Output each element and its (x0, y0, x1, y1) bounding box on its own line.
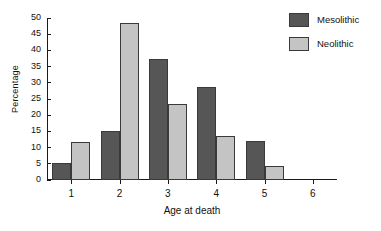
x-tick-label: 3 (156, 188, 180, 199)
y-axis-title: Percentage (10, 44, 20, 134)
y-tick-mark (47, 180, 51, 181)
x-tick-mark (216, 180, 217, 184)
x-tick-mark (168, 180, 169, 184)
y-tick-label: 0 (36, 174, 41, 185)
bar (265, 166, 284, 180)
legend-swatch-neolithic (289, 37, 309, 51)
x-tick-mark (313, 180, 314, 184)
y-tick-label: 30 (31, 77, 41, 88)
y-tick-mark (47, 99, 51, 100)
legend-label-neolithic: Neolithic (317, 38, 353, 49)
x-tick-mark (265, 180, 266, 184)
legend-label-mesolithic: Mesolithic (317, 14, 359, 25)
bar (168, 104, 187, 180)
y-tick-label: 45 (31, 28, 41, 39)
y-tick-label: 10 (31, 142, 41, 153)
bar (120, 23, 139, 180)
y-tick-mark (47, 115, 51, 116)
y-tick-mark (47, 18, 51, 19)
x-axis-title: Age at death (47, 205, 337, 216)
y-tick-mark (47, 131, 51, 132)
bar (71, 142, 90, 180)
bar (197, 87, 216, 180)
bar (101, 131, 120, 180)
x-tick-label: 2 (108, 188, 132, 199)
y-tick-label: 15 (31, 125, 41, 136)
chart-legend: Mesolithic Neolithic (289, 11, 359, 59)
x-tick-mark (120, 180, 121, 184)
y-tick-label: 40 (31, 44, 41, 55)
x-tick-label: 6 (301, 188, 325, 199)
legend-item-mesolithic: Mesolithic (289, 11, 359, 28)
y-tick-mark (47, 34, 51, 35)
bar (52, 163, 71, 180)
bar-chart: Percentage 05101520253035404550 123456 A… (0, 0, 381, 231)
x-tick-label: 5 (253, 188, 277, 199)
bar (216, 136, 235, 180)
y-tick-label: 20 (31, 109, 41, 120)
x-tick-label: 1 (59, 188, 83, 199)
bar (246, 141, 265, 180)
x-tick-label: 4 (204, 188, 228, 199)
y-tick-label: 50 (31, 12, 41, 23)
x-tick-mark (71, 180, 72, 184)
legend-item-neolithic: Neolithic (289, 35, 359, 52)
x-axis-line (47, 179, 337, 180)
y-tick-mark (47, 50, 51, 51)
y-tick-mark (47, 82, 51, 83)
y-tick-mark (47, 163, 51, 164)
y-tick-mark (47, 147, 51, 148)
legend-swatch-mesolithic (289, 13, 309, 27)
y-tick-mark (47, 66, 51, 67)
y-tick-label: 25 (31, 93, 41, 104)
bar (149, 59, 168, 180)
y-tick-label: 35 (31, 61, 41, 72)
y-tick-label: 5 (36, 158, 41, 169)
